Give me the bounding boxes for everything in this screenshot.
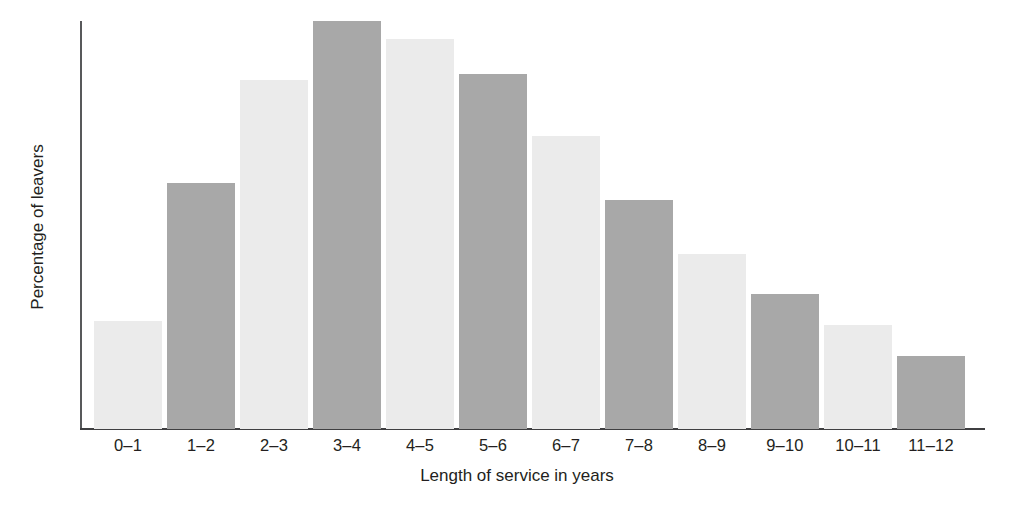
bar-4-5 — [386, 21, 454, 429]
bar-rect — [605, 200, 673, 429]
y-axis-line — [80, 21, 82, 430]
x-tick-label-11-12: 11–12 — [888, 436, 974, 455]
bar-11-12 — [897, 21, 965, 429]
bar-rect — [94, 321, 162, 429]
bar-rect — [532, 136, 600, 429]
bar-rect — [167, 183, 235, 429]
bar-rect — [459, 74, 527, 429]
plot-area — [94, 21, 970, 429]
bar-rect — [824, 325, 892, 429]
page-left-edge — [0, 0, 3, 505]
bar-3-4 — [313, 21, 381, 429]
bar-1-2 — [167, 21, 235, 429]
bar-rect — [751, 294, 819, 429]
x-axis-title: Length of service in years — [0, 466, 1030, 486]
bar-0-1 — [94, 21, 162, 429]
bar-5-6 — [459, 21, 527, 429]
bar-rect — [897, 356, 965, 429]
bar-rect — [678, 254, 746, 429]
bar-10-11 — [824, 21, 892, 429]
bar-2-3 — [240, 21, 308, 429]
bar-9-10 — [751, 21, 819, 429]
x-axis-title-text: Length of service in years — [420, 466, 614, 486]
bar-chart-figure: Percentage of leavers Length of service … — [0, 0, 1030, 505]
bar-rect — [240, 80, 308, 429]
bar-rect — [386, 39, 454, 429]
bar-rect — [313, 21, 381, 429]
bar-6-7 — [532, 21, 600, 429]
bar-7-8 — [605, 21, 673, 429]
y-axis-title: Percentage of leavers — [28, 107, 48, 347]
bar-8-9 — [678, 21, 746, 429]
